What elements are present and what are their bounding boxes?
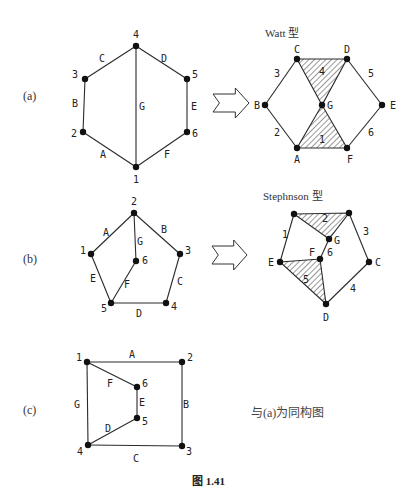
panel-a-result-vertex [344,145,350,151]
panel-b-vertex [163,300,169,306]
panel-a-result-edge-5 [347,59,382,105]
panel-a-vertex-label: 1 [133,174,139,185]
panel-b-result-edge-label: 4 [350,283,356,294]
panel-b-result-link-label: 5 [303,274,309,285]
panel-a-result-vertex [319,102,325,108]
panel-c-edge-label: F [107,378,113,389]
panel-c-edge-label: D [105,423,111,434]
panel-c-edge-label: E [139,397,145,408]
panel-a-result-edge-6 [347,105,382,148]
panel-b-edge-label: A [103,227,109,238]
panel-a-result-edge-2 [265,105,297,148]
panel-a-vertex-label: 2 [71,128,77,139]
figure-caption: 图 1.41 [192,475,225,487]
panel-b-result-vertex-label: G [334,235,340,246]
panel-a-result-link-label: 1 [319,134,325,145]
panel-c-vertex [84,359,90,365]
panel-a-edge-A [83,132,136,167]
panel-c-vertex [179,359,185,365]
panel-a-vertex-label: 6 [192,128,198,139]
panel-a-result-vertex-label: B [254,100,260,111]
panel-b-edge-A [91,213,134,254]
panel-c-vertex [179,443,185,449]
panel-a-edge-B [83,79,85,132]
panel-b-edge-G [134,213,136,261]
panel-c-vertex-label: 4 [77,446,83,457]
panel-a-edge-F [136,132,187,167]
panel-b-result-vertex [326,236,332,242]
panel-a-result-vertex-label: A [294,154,300,165]
panel-b-result-vertex [291,211,297,217]
panel-b-result-vertex [346,210,352,216]
panel-b-edge-B [134,213,180,254]
panel-a-result-vertex-label: D [344,44,350,55]
panel-a-edge-label: B [72,98,78,109]
panel-c-edge-C [88,445,182,446]
transform-arrows [212,88,249,270]
panel-b-result-edge-3 [349,213,369,262]
panel-a-result-vertex [344,56,350,62]
panel-a-vertex [80,129,86,135]
panel-b-result-vertex [323,301,329,307]
panel-c-vertex [85,442,91,448]
panel-a-vertex-label: 4 [133,29,139,40]
panel-b-result-vertex-label: F [309,247,315,258]
panel-b-edge-label: F [124,279,130,290]
arrow-icon [212,240,247,270]
panel-a-edge-label: G [139,101,145,112]
panel-b-result-edge-4 [326,262,369,304]
panel-a-vertex [133,43,139,49]
panel-b-vertex-label: 5 [101,303,107,314]
panel-b-vertex [88,251,94,257]
panel-a-result-link-label: 4 [319,66,325,77]
panel-a-vertex [184,76,190,82]
panel-b-vertex [177,251,183,257]
panel-b-vertex [131,210,137,216]
panel-b-result-vertex [277,259,283,265]
panel-b-result-vertex-label: E [268,257,274,268]
panel-a-result-edge-label: 2 [274,127,280,138]
panel-a-result-edge-label: 3 [274,68,280,79]
arrow-icon [213,88,249,118]
panel-c-vertex-label: 6 [142,378,148,389]
panel-a-result-vertex-label: F [347,154,353,165]
panel-c-edge-D [88,418,137,445]
panel-b-vertex-label: 4 [171,301,177,312]
panel-b-vertex-label: 3 [185,245,191,256]
figure-canvas: (a) (b) (c) Watt 型 Stephnson 型 与(a)为同构图 … [0,0,415,501]
panel-a-result-vertex [294,145,300,151]
isomorphic-note: 与(a)为同构图 [251,405,324,420]
panel-b-edge-label: C [177,276,183,287]
panel-a-vertex [82,76,88,82]
panel-a-edge-label: A [100,149,106,160]
panel-c-edge-G [87,362,88,445]
panel-a-result-edge-3 [265,59,297,105]
panel-b-edge-label: G [137,236,143,247]
panel-c-vertex [134,415,140,421]
panel-a-result-vertex [379,102,385,108]
panel-b-edge-label: E [90,273,96,284]
panel-b-result-edge-label: 3 [363,226,369,237]
panel-b-result-edge-label: 6 [327,247,333,258]
panel-a-vertex [133,164,139,170]
panel-a-edge-label: C [99,53,105,64]
panel-b-result-vertex-label: D [323,312,329,323]
panel-a-vertex [184,129,190,135]
panel-b-vertex-label: 1 [80,245,86,256]
panel-c-vertex-label: 3 [186,446,192,457]
panel-a-result-vertex-label: G [327,100,333,111]
panel-c-vertex-label: 5 [142,416,148,427]
panel-a-result-vertex [262,102,268,108]
panel-a-result-vertex-label: C [294,44,300,55]
panel-b-edge-label: D [136,308,142,319]
panel-b-result-link-label: 2 [322,213,328,224]
panel-c-vertex [134,384,140,390]
panel-b-vertex-label: 2 [131,196,137,207]
panel-c-edge-label: A [129,349,135,360]
panel-b-result-vertex [317,256,323,262]
panel-a-edge-label: D [161,53,167,64]
panel-a-result-vertex-label: E [390,100,396,111]
panel-c-vertex-label: 2 [187,352,193,363]
panel-b-edge-label: B [161,224,167,235]
panel-label-c: (c) [23,403,36,417]
